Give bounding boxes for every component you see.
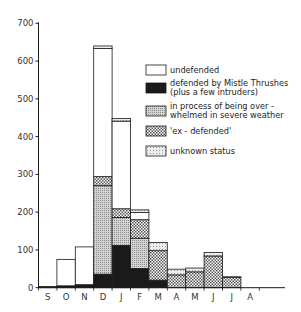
bar-segment-exdefended	[204, 256, 222, 288]
bar-segment-exdefended	[186, 272, 204, 288]
x-tick-label: O	[63, 292, 70, 302]
y-tick-label: 600	[17, 56, 33, 66]
legend-swatch	[146, 126, 166, 136]
bar-segment-exdefended	[167, 275, 185, 288]
bar-4	[112, 118, 130, 287]
y-tick-label: 500	[17, 94, 33, 104]
x-tick-label: J	[119, 292, 123, 302]
x-tick-label: M	[154, 292, 161, 302]
y-tick-label: 400	[17, 132, 33, 142]
bar-segment-undefended	[94, 49, 112, 177]
bar-10	[223, 277, 241, 288]
bar-segment-unknown	[149, 242, 167, 250]
x-tick-label: N	[81, 292, 87, 302]
bar-segment-exdefended	[149, 251, 167, 280]
legend-item-defended: defended by Mistle Thrushes(plus a few i…	[146, 78, 288, 97]
legend-swatch	[146, 65, 166, 75]
y-tick-label: 100	[17, 245, 33, 255]
bar-segment-exdefended	[112, 209, 130, 218]
x-tick-label: F	[137, 292, 142, 302]
legend-label: unknown status	[170, 146, 235, 156]
bar-1	[57, 259, 75, 287]
legend-label: undefended	[170, 65, 219, 75]
bar-8	[186, 268, 204, 288]
legend-swatch	[146, 106, 166, 116]
bar-segment-exdefended	[223, 278, 241, 288]
x-tick-label: J	[229, 292, 233, 302]
x-tick-label: M	[191, 292, 198, 302]
legend-item-severe: in process of being over -whelmed in sev…	[146, 101, 284, 120]
bar-2	[75, 247, 93, 288]
stacked-bar-chart: 0100200300400500600700SONDJFMAMJJA undef…	[0, 0, 301, 312]
y-tick-label: 200	[17, 207, 33, 217]
x-tick-label: A	[247, 292, 253, 302]
bar-segment-defended	[112, 245, 130, 287]
bar-segment-undefended	[57, 259, 75, 285]
bar-segment-unknown	[204, 253, 222, 256]
legend-label: 'ex - defended'	[170, 126, 231, 136]
legend-item-undefended: undefended	[146, 65, 219, 75]
legend-label-line2: (plus a few intruders)	[170, 87, 258, 97]
bar-segment-defended	[94, 274, 112, 288]
bar-segment-unknown	[223, 277, 241, 278]
bar-segment-exdefended	[131, 220, 149, 239]
legend: undefendeddefended by Mistle Thrushes(pl…	[146, 65, 288, 156]
bar-9	[204, 253, 222, 288]
bar-segment-unknown	[186, 268, 204, 272]
bar-segment-unknown	[94, 46, 112, 49]
bar-segment-severe	[94, 186, 112, 274]
y-tick-label: 700	[17, 18, 33, 28]
bar-segment-unknown	[167, 269, 185, 275]
bar-segment-defended	[131, 268, 149, 287]
bar-segment-undefended	[131, 213, 149, 220]
bar-segment-severe	[131, 238, 149, 268]
bar-6	[149, 242, 167, 287]
legend-item-unknown: unknown status	[146, 146, 235, 156]
bar-5	[131, 210, 149, 288]
bar-7	[167, 269, 185, 288]
x-tick-label: D	[100, 292, 107, 302]
bar-segment-exdefended	[94, 177, 112, 186]
legend-swatch	[146, 83, 166, 93]
legend-item-exdefended: 'ex - defended'	[146, 126, 231, 136]
legend-label-line2: whelmed in severe weather	[170, 110, 284, 120]
x-tick-label: S	[45, 292, 50, 302]
legend-swatch	[146, 146, 166, 156]
bar-segment-undefended	[112, 121, 130, 209]
y-tick-label: 0	[28, 283, 33, 293]
bar-segment-unknown	[112, 118, 130, 121]
bar-3	[94, 46, 112, 288]
bar-segment-severe	[112, 217, 130, 245]
bar-segment-unknown	[131, 210, 149, 213]
x-tick-label: A	[174, 292, 180, 302]
y-tick-label: 300	[17, 169, 33, 179]
bar-segment-defended	[149, 280, 167, 288]
bar-segment-undefended	[75, 247, 93, 285]
x-tick-label: J	[211, 292, 215, 302]
